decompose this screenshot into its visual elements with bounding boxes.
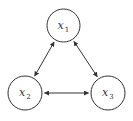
edge-x1-x3 xyxy=(74,41,97,76)
node-x3: x3 xyxy=(91,76,125,110)
node-subscript: 2 xyxy=(26,93,30,101)
edge-x1-x2 xyxy=(35,42,54,76)
node-subscript: 1 xyxy=(65,26,69,34)
graph-diagram: x1x2x3 xyxy=(0,0,133,121)
node-label: x xyxy=(57,19,64,32)
node-label: x xyxy=(19,86,26,99)
node-subscript: 3 xyxy=(109,93,113,101)
nodes: x1x2x3 xyxy=(8,9,125,110)
node-x2: x2 xyxy=(8,76,42,110)
node-label: x xyxy=(102,86,109,99)
node-x1: x1 xyxy=(47,9,80,42)
edges xyxy=(35,41,98,93)
